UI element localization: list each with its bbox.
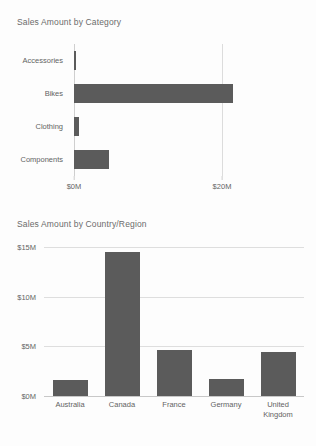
bar-slot xyxy=(148,247,200,396)
chart-title: Sales Amount by Country/Region xyxy=(17,219,147,229)
chart-sales-by-category[interactable]: Sales Amount by Category Accessories Bik… xyxy=(0,0,316,200)
bar-australia[interactable] xyxy=(53,380,88,396)
bar-row xyxy=(74,110,296,143)
axis-label: $5M xyxy=(21,342,36,351)
axis-tick: $20M xyxy=(213,176,232,191)
bar-slot xyxy=(200,247,252,396)
axis-label: $10M xyxy=(17,292,36,301)
axis-label: Accessories xyxy=(0,44,69,77)
bar-series xyxy=(44,247,304,396)
axis-label: Germany xyxy=(200,400,252,420)
tick-mark xyxy=(74,176,75,180)
gridline-0m xyxy=(44,396,304,397)
value-axis-ticks: $0M $20M xyxy=(74,176,296,196)
category-axis-labels: Australia Canada France Germany United K… xyxy=(44,400,304,420)
bar-bikes[interactable] xyxy=(74,84,233,103)
plot-area xyxy=(44,247,304,396)
bar-slot xyxy=(96,247,148,396)
bar-clothing[interactable] xyxy=(74,117,79,136)
axis-label: Australia xyxy=(44,400,96,420)
bar-slot xyxy=(44,247,96,396)
axis-label: France xyxy=(148,400,200,420)
bar-france[interactable] xyxy=(157,350,192,396)
chart-title: Sales Amount by Category xyxy=(17,17,121,27)
bar-row xyxy=(74,143,296,176)
axis-label: Canada xyxy=(96,400,148,420)
bar-row xyxy=(74,44,296,77)
bar-united-kingdom[interactable] xyxy=(261,352,296,396)
tick-label: $20M xyxy=(213,182,232,191)
plot-area xyxy=(74,44,296,176)
chart-sales-by-country-region[interactable]: Sales Amount by Country/Region $0M $5M $… xyxy=(0,205,316,446)
category-axis-labels: Accessories Bikes Clothing Components xyxy=(0,44,69,176)
axis-label: United Kingdom xyxy=(252,400,304,420)
axis-label: Components xyxy=(0,143,69,176)
bar-germany[interactable] xyxy=(209,379,244,396)
report-page: Sales Amount by Category Accessories Bik… xyxy=(0,0,316,446)
bar-components[interactable] xyxy=(74,150,109,169)
axis-label: $15M xyxy=(17,243,36,252)
bar-accessories[interactable] xyxy=(74,51,76,70)
axis-label: Bikes xyxy=(0,77,69,110)
axis-tick: $0M xyxy=(67,176,82,191)
axis-label: $0M xyxy=(21,392,36,401)
value-axis-labels: $0M $5M $10M $15M xyxy=(0,247,40,396)
axis-label: Clothing xyxy=(0,110,69,143)
bar-row xyxy=(74,77,296,110)
tick-label: $0M xyxy=(67,182,82,191)
bar-series xyxy=(74,44,296,176)
bar-slot xyxy=(252,247,304,396)
bar-canada[interactable] xyxy=(105,252,140,396)
tick-mark xyxy=(221,176,222,180)
